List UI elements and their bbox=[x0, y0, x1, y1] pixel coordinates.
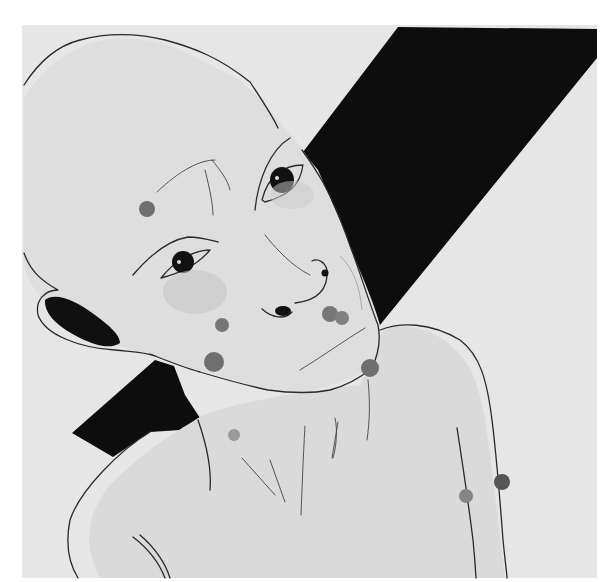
spot-arm-1 bbox=[494, 474, 510, 490]
spot-chin-2 bbox=[335, 311, 349, 325]
left-eye-bag bbox=[163, 270, 227, 314]
spot-forehead bbox=[139, 201, 155, 217]
nostril bbox=[322, 270, 329, 277]
spot-chest bbox=[228, 429, 240, 441]
left-eye-pupil bbox=[172, 251, 194, 273]
mouth-dark bbox=[275, 306, 291, 316]
spot-cheek bbox=[215, 318, 229, 332]
left-eye-highlight bbox=[177, 260, 181, 264]
right-eye-shadow bbox=[270, 181, 314, 209]
artwork-drawing bbox=[0, 0, 613, 582]
spot-arm-2 bbox=[459, 489, 473, 503]
spot-jaw bbox=[204, 352, 224, 372]
right-eye-highlight bbox=[275, 176, 279, 180]
spot-neck bbox=[361, 359, 379, 377]
